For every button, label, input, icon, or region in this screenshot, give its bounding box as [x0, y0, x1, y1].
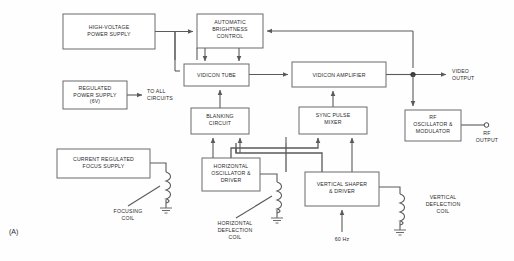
block-label-line: AUTOMATIC [214, 19, 246, 25]
figure-canvas: HIGH-VOLTAGE POWER SUPPLY REGULATED POWE… [0, 0, 514, 261]
block-label-line: POWER SUPPLY [87, 31, 131, 37]
block-rf-oscillator-modulator[interactable]: RF OSCILLATOR & MODULATOR [405, 110, 461, 141]
annotation-line: OUTPUT [452, 75, 475, 81]
block-label-line: FOCUS SUPPLY [83, 163, 125, 169]
block-label-line: MODULATOR [416, 128, 450, 134]
annotation-line: RF [483, 130, 490, 136]
block-label-line: POWER SUPPLY [73, 92, 117, 98]
block-hv-power-supply[interactable]: HIGH-VOLTAGE POWER SUPPLY [63, 14, 155, 49]
wire-focus-to-coil [150, 163, 166, 172]
annotation-horizontal-deflection-coil: HORIZONTAL DEFLECTION COIL [218, 220, 253, 240]
annotation-line-frequency: 60 Hz [335, 236, 350, 242]
annotation-vertical-deflection-coil: VERTICAL DEFLECTION COIL [426, 194, 461, 214]
annotation-line: DEFLECTION [426, 201, 461, 207]
block-regulated-power-supply[interactable]: REGULATED POWER SUPPLY (6V) [63, 81, 127, 109]
annotation-line: TO ALL [147, 88, 166, 94]
annotation-line: VIDEO [452, 68, 469, 74]
ground-horizontal [271, 218, 283, 223]
block-label-line: VIDICON AMPLIFIER [312, 72, 365, 78]
block-label-line: HIGH-VOLTAGE [89, 24, 130, 30]
block-label-line: RF [429, 114, 436, 120]
block-label-line: (6V) [90, 98, 101, 104]
annotation-line: OUTPUT [476, 137, 499, 143]
block-label-line: CONTROL [217, 33, 244, 39]
block-vidicon-amplifier[interactable]: VIDICON AMPLIFIER [292, 62, 386, 87]
vertical-deflection-coil-symbol [400, 194, 405, 225]
block-automatic-brightness-control[interactable]: AUTOMATIC BRIGHTNESS CONTROL [197, 14, 263, 48]
panel-label: (A) [9, 228, 18, 236]
block-current-regulated-focus-supply[interactable]: CURRENT REGULATED FOCUS SUPPLY [57, 149, 150, 178]
block-label-line: CURRENT REGULATED [73, 156, 134, 162]
ground-vertical [394, 230, 406, 235]
annotation-line: COIL [229, 234, 242, 240]
block-diagram-svg: HIGH-VOLTAGE POWER SUPPLY REGULATED POWE… [0, 0, 514, 261]
annotation-line: HORIZONTAL [218, 220, 253, 226]
block-label-line: VIDICON TUBE [197, 72, 236, 78]
annotation-to-all-circuits: TO ALL CIRCUITS [147, 88, 173, 101]
block-label-line: CIRCUIT [209, 120, 232, 126]
annotation-line: DEFLECTION [218, 227, 253, 233]
annotation-rf-output: RF OUTPUT [476, 130, 499, 143]
block-label-line: SYNC PULSE [316, 112, 351, 118]
annotation-line: FOCUSING [114, 208, 143, 214]
wire-horiz-to-coil [260, 174, 277, 182]
annotation-line: VERTICAL [430, 194, 457, 200]
block-label-line: OSCILLATOR & [413, 121, 453, 127]
annotation-line: CIRCUITS [147, 95, 173, 101]
leader-horizontal-coil [236, 196, 272, 218]
block-horizontal-oscillator-driver[interactable]: HORIZONTAL OSCILLATOR & DRIVER [202, 158, 260, 191]
block-label-line: DRIVER [221, 177, 242, 183]
block-label-line: & DRIVER [329, 188, 355, 194]
annotation-focusing-coil: FOCUSING COIL [114, 208, 143, 221]
annotation-video-output: VIDEO OUTPUT [452, 68, 475, 81]
wire-horiz-to-sync [231, 138, 318, 158]
blocks-layer: HIGH-VOLTAGE POWER SUPPLY REGULATED POWE… [57, 14, 461, 206]
leader-focusing-coil [128, 186, 160, 206]
ground-focus [160, 208, 172, 213]
block-label-line: MIXER [324, 119, 341, 125]
rf-output-terminal [484, 123, 489, 128]
block-vertical-shaper-driver[interactable]: VERTICAL SHAPER & DRIVER [305, 172, 379, 206]
block-blanking-circuit[interactable]: BLANKING CIRCUIT [191, 108, 249, 134]
block-label-line: REGULATED [79, 85, 112, 91]
block-vidicon-tube[interactable]: VIDICON TUBE [184, 64, 249, 86]
annotation-line: COIL [437, 208, 450, 214]
wire-vert-to-coil [379, 187, 400, 194]
block-label-line: OSCILLATOR & [211, 170, 251, 176]
block-sync-pulse-mixer[interactable]: SYNC PULSE MIXER [299, 107, 367, 134]
horizontal-deflection-coil-symbol [277, 182, 282, 213]
block-label-line: BRIGHTNESS [212, 26, 248, 32]
annotation-line: COIL [122, 215, 135, 221]
focusing-coil-symbol [166, 172, 171, 203]
block-label-line: HORIZONTAL [214, 163, 249, 169]
block-label-line: VERTICAL SHAPER [317, 181, 368, 187]
block-label-line: BLANKING [206, 113, 234, 119]
